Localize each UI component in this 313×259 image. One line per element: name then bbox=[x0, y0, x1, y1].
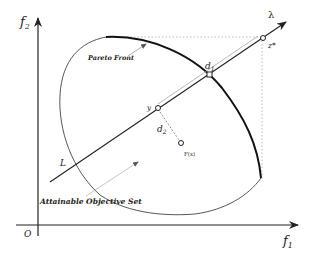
fx-label: F(x) bbox=[184, 151, 195, 157]
line-L bbox=[50, 22, 286, 182]
d1-label: d1 bbox=[205, 61, 215, 72]
y-point-marker bbox=[156, 106, 161, 111]
d2-label: d2 bbox=[157, 124, 167, 135]
pareto-front-label: Pareto Front bbox=[87, 54, 134, 62]
f1-axis-label: f1 bbox=[282, 233, 293, 250]
fx-point-marker bbox=[179, 141, 184, 146]
line-label: L bbox=[59, 158, 66, 168]
f2-axis-label: f2 bbox=[19, 14, 30, 31]
pbi-diagram: f2 f1 O Pareto Front Attainable Objectiv… bbox=[0, 0, 313, 259]
origin-label: O bbox=[24, 229, 32, 239]
attainable-set-pointer bbox=[86, 162, 138, 196]
y-label: y bbox=[146, 104, 152, 112]
attainable-set-label: Attainable Objective Set bbox=[39, 197, 142, 206]
ideal-point-marker bbox=[261, 36, 266, 41]
d1-intersection-marker bbox=[207, 72, 212, 77]
ideal-point-label: z* bbox=[267, 41, 276, 50]
lambda-label: λ bbox=[268, 9, 275, 20]
